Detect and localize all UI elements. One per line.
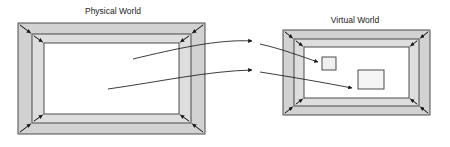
diagram-canvas: Physical World bbox=[0, 0, 450, 147]
virtual-inner-area bbox=[304, 47, 409, 98]
diagram-svg: Physical World bbox=[0, 0, 450, 147]
panel-virtual-world: Virtual World bbox=[283, 15, 430, 115]
virtual-object-small-square bbox=[322, 57, 336, 70]
physical-world-label: Physical World bbox=[85, 6, 141, 16]
panel-physical-world: Physical World bbox=[18, 6, 205, 134]
physical-inner-area bbox=[44, 43, 179, 114]
virtual-world-label: Virtual World bbox=[331, 15, 380, 25]
virtual-object-large-square bbox=[358, 70, 384, 89]
